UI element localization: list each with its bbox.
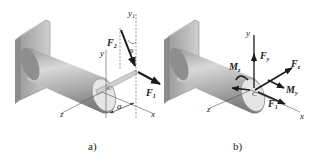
force-f1-arrow bbox=[138, 72, 160, 84]
cantilever-shaft-diagram: y y1 F2 φ F1 C a z x a) bbox=[0, 0, 316, 165]
force-label-f1: F1 bbox=[145, 87, 156, 99]
phi-angle-arc bbox=[128, 40, 136, 44]
force-label-f2: F2 bbox=[106, 37, 117, 49]
axis-label-y1: y1 bbox=[127, 8, 135, 19]
moment-label-mz: Mz bbox=[228, 61, 241, 73]
axis-label-y: y bbox=[99, 48, 104, 58]
axis-label-z: z bbox=[59, 109, 64, 119]
point-label-c: C bbox=[252, 90, 257, 98]
axis-label-y: y bbox=[245, 28, 250, 38]
moment-label-my: My bbox=[285, 84, 298, 96]
force-label-fy: Fy bbox=[259, 50, 270, 62]
angle-label-phi: φ bbox=[129, 46, 134, 55]
point-label-c: C bbox=[107, 84, 112, 92]
caption-b: b) bbox=[233, 140, 243, 153]
axis-label-z: z bbox=[206, 104, 211, 114]
panel-a: y y1 F2 φ F1 C a z x a) bbox=[15, 8, 160, 153]
axis-label-x: x bbox=[150, 109, 155, 119]
panel-b: y Fy Mz Fz My F1 C z x b) bbox=[164, 20, 304, 153]
axis-label-x: x bbox=[299, 111, 304, 121]
dimension-label-a: a bbox=[117, 101, 122, 111]
force-label-fz: Fz bbox=[290, 58, 301, 70]
moment-my-arrow bbox=[268, 80, 284, 88]
caption-a: a) bbox=[88, 140, 97, 153]
